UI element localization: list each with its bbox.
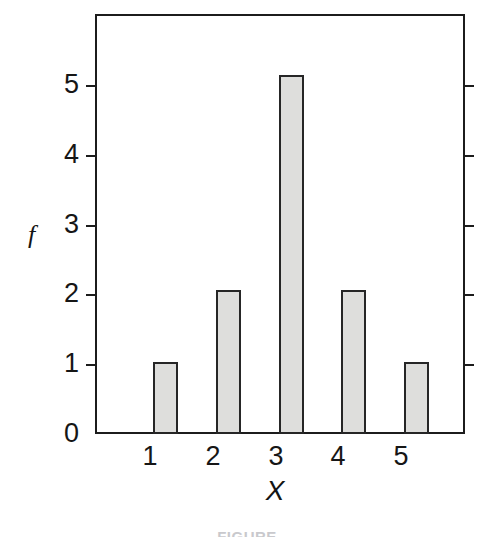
y-tick-mark-right-1 — [465, 364, 474, 366]
bar-category-1 — [153, 362, 178, 434]
figure-root: 5 4 3 2 1 0 1 2 3 4 5 f X FIGURE — [0, 0, 494, 537]
y-tick-mark-right-2 — [465, 294, 474, 296]
x-axis-title: X — [255, 477, 295, 505]
bar-category-3 — [279, 75, 304, 434]
y-tick-mark-right-4 — [465, 155, 474, 157]
y-tick-mark-right-3 — [465, 225, 474, 227]
x-tick-label-1: 1 — [130, 443, 170, 470]
x-tick-label-5: 5 — [381, 443, 421, 470]
y-tick-mark-right-5 — [465, 85, 474, 87]
y-tick-label-2: 2 — [55, 280, 79, 307]
y-tick-mark-4 — [86, 155, 95, 157]
bar-category-4 — [341, 290, 366, 434]
y-tick-mark-5 — [86, 85, 95, 87]
y-tick-mark-3 — [86, 225, 95, 227]
x-tick-label-4: 4 — [318, 443, 358, 470]
y-tick-label-0: 0 — [55, 420, 79, 447]
y-tick-label-3: 3 — [55, 211, 79, 238]
y-tick-label-5: 5 — [55, 71, 79, 98]
y-tick-mark-2 — [86, 294, 95, 296]
y-axis-title: f — [28, 222, 35, 248]
bar-category-2 — [216, 290, 241, 434]
figure-caption: FIGURE — [0, 528, 494, 537]
bar-category-5 — [404, 362, 429, 434]
x-tick-label-2: 2 — [193, 443, 233, 470]
x-tick-label-3: 3 — [256, 443, 296, 470]
y-tick-label-4: 4 — [55, 141, 79, 168]
bars-layer — [95, 14, 465, 434]
y-tick-mark-1 — [86, 364, 95, 366]
y-tick-label-1: 1 — [55, 350, 79, 377]
